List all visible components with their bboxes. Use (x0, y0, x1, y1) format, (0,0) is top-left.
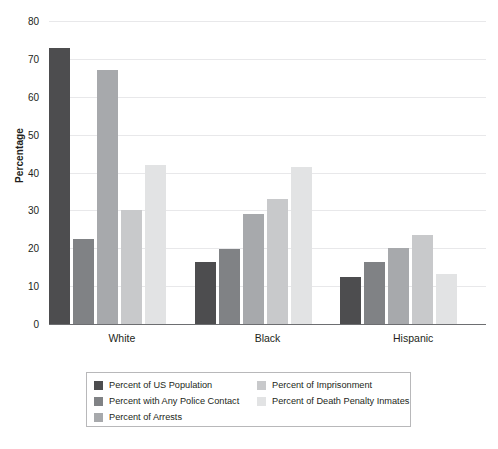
bar-black-series-3 (267, 199, 288, 324)
legend-columns: Percent of US PopulationPercent with Any… (94, 378, 410, 426)
legend-swatch-icon (94, 413, 103, 422)
legend-item[interactable]: Percent of Death Penalty Inmates (257, 394, 409, 409)
legend-item[interactable]: Percent of US Population (94, 378, 257, 393)
y-axis-tick-label: 10 (28, 281, 39, 292)
y-axis-tick-label: 50 (28, 129, 39, 140)
legend-item[interactable]: Percent of Arrests (94, 410, 257, 425)
y-axis-tick-label: 70 (28, 53, 39, 64)
y-axis-tick-label: 0 (33, 319, 39, 330)
bar-white-series-2 (97, 70, 118, 324)
legend-item-label: Percent of Arrests (109, 413, 182, 422)
x-axis-category-labels: WhiteBlackHispanic (49, 332, 486, 350)
bar-white-series-4 (145, 165, 166, 324)
y-axis-tick-labels: 01020304050607080 (0, 21, 44, 324)
y-axis-tick-label: 20 (28, 243, 39, 254)
legend-item[interactable]: Percent of Imprisonment (257, 378, 409, 393)
bar-white-series-0 (49, 48, 70, 324)
bar-black-series-2 (243, 214, 264, 324)
bar-group-hispanic (340, 21, 486, 324)
bar-black-series-4 (291, 167, 312, 324)
plot-area (49, 21, 486, 324)
y-axis-tick-label: 40 (28, 167, 39, 178)
bar-group-black (195, 21, 341, 324)
chart-legend: Percent of US PopulationPercent with Any… (86, 372, 411, 427)
legend-swatch-icon (94, 397, 103, 406)
bar-black-series-0 (195, 262, 216, 324)
bar-black-series-1 (219, 249, 240, 324)
y-axis-tick-label: 30 (28, 205, 39, 216)
bar-hispanic-series-3 (412, 235, 433, 324)
x-axis-label-white: White (49, 332, 195, 350)
bar-chart-figure: Percentage 01020304050607080 WhiteBlackH… (0, 0, 498, 449)
legend-swatch-icon (94, 381, 103, 390)
y-axis-tick-label: 60 (28, 91, 39, 102)
legend-item[interactable]: Percent with Any Police Contact (94, 394, 257, 409)
bar-white-series-1 (73, 239, 94, 324)
y-axis-tick-label: 80 (28, 16, 39, 27)
x-axis-label-hispanic: Hispanic (340, 332, 486, 350)
legend-item-label: Percent with Any Police Contact (109, 397, 239, 406)
bar-hispanic-series-1 (364, 262, 385, 324)
bar-hispanic-series-0 (340, 277, 361, 324)
legend-swatch-icon (257, 381, 266, 390)
bar-group-white (49, 21, 195, 324)
legend-column-0: Percent of US PopulationPercent with Any… (94, 378, 257, 426)
legend-swatch-icon (257, 397, 266, 406)
bar-hispanic-series-2 (388, 248, 409, 325)
bar-hispanic-series-4 (436, 274, 457, 324)
bar-groups (49, 21, 486, 324)
x-axis-label-black: Black (195, 332, 341, 350)
legend-column-1: Percent of ImprisonmentPercent of Death … (257, 378, 409, 426)
legend-item-label: Percent of US Population (109, 381, 212, 390)
bar-white-series-3 (121, 210, 142, 324)
legend-item-label: Percent of Death Penalty Inmates (272, 397, 409, 406)
legend-item-label: Percent of Imprisonment (272, 381, 372, 390)
